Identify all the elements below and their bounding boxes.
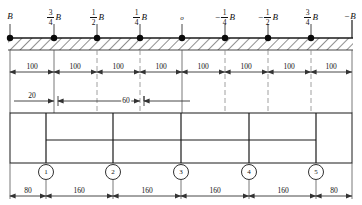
minus-sign: − — [215, 13, 220, 22]
drawing-canvas: B 3 4 B 1 2 B 1 4 B o − 1 4 B — [0, 0, 362, 205]
dim-label-100-7: 100 — [282, 62, 295, 71]
dim-label-160-1: 160 — [72, 186, 85, 195]
column-marker-2: 2 — [111, 168, 115, 176]
minus-sign: − — [344, 12, 349, 21]
fraction-3-4: 3 4 — [304, 9, 311, 26]
label-b-right: − B — [344, 12, 356, 21]
dim-label-100-5: 100 — [196, 62, 209, 71]
label-b-left: B — [7, 12, 13, 21]
column-marker-1: 1 — [44, 168, 48, 176]
label-b-three-quarters: 3 4 B — [47, 9, 61, 26]
b-symbol: B — [313, 13, 319, 22]
label-b-neg-one-quarter: − 1 4 B — [215, 9, 235, 26]
dim-label-100-2: 100 — [68, 62, 81, 71]
dim-label-160-3: 160 — [208, 186, 221, 195]
column-marker-3: 3 — [179, 168, 183, 176]
fraction-1-2: 1 2 — [90, 9, 97, 26]
dim-label-80-left: 80 — [23, 186, 33, 195]
column-marker-5: 5 — [314, 168, 318, 176]
minus-sign: − — [258, 13, 263, 22]
label-origin-o: o — [180, 15, 184, 22]
label-b-one-half: 1 2 B — [90, 9, 104, 26]
dim-label-100-3: 100 — [111, 62, 124, 71]
b-symbol: B — [230, 13, 236, 22]
label-b-neg-one-half: − 1 2 B — [258, 9, 278, 26]
b-symbol: B — [350, 12, 356, 21]
dim-label-60: 60 — [121, 96, 131, 105]
dim-label-20: 20 — [27, 91, 37, 100]
label-b-one-quarter: 1 4 B — [133, 9, 147, 26]
dim-label-160-4: 160 — [276, 186, 289, 195]
column-marker-4: 4 — [247, 168, 251, 176]
plan-column-lines — [46, 113, 316, 163]
fraction-3-4: 3 4 — [47, 9, 54, 26]
dim-label-100-1: 100 — [25, 62, 38, 71]
b-symbol: B — [56, 13, 62, 22]
label-b-neg-three-quarters: 3 4 B — [304, 9, 318, 26]
dim-label-100-6: 100 — [239, 62, 252, 71]
b-symbol: B — [99, 13, 105, 22]
dim-label-100-8: 100 — [324, 62, 337, 71]
fraction-1-4: 1 4 — [133, 9, 140, 26]
b-symbol: B — [7, 12, 13, 21]
dim-label-100-4: 100 — [154, 62, 167, 71]
extension-lines-solid — [10, 50, 352, 113]
dim-label-160-2: 160 — [140, 186, 153, 195]
b-symbol: B — [273, 13, 279, 22]
dim-label-80-right: 80 — [329, 186, 339, 195]
fraction-1-2: 1 2 — [264, 9, 271, 26]
b-symbol: B — [142, 13, 148, 22]
fraction-1-4: 1 4 — [221, 9, 228, 26]
